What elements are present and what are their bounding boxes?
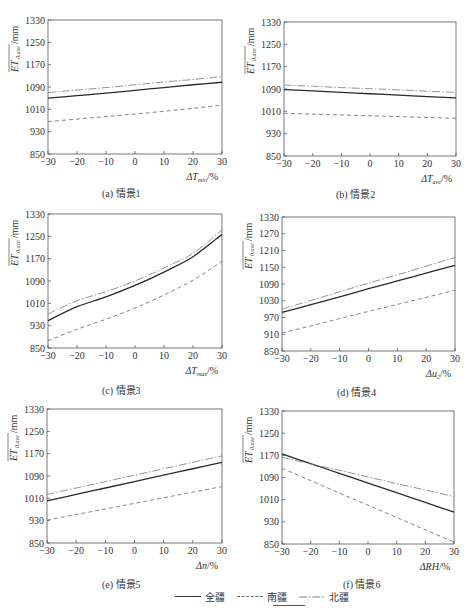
x-axis-label: ΔRH/%: [419, 561, 450, 572]
caption-d: (d) 情景4: [337, 384, 376, 399]
x-tick-label: −30: [274, 546, 290, 557]
caption-b: (b) 情景2: [336, 186, 375, 201]
y-tick-label: 1330: [259, 406, 279, 417]
x-tick-label: −20: [303, 546, 319, 557]
x-tick-label: −10: [332, 546, 348, 557]
legend-label: 南疆: [267, 589, 287, 604]
svg-text:/mm: /mm: [243, 416, 254, 435]
y-tick-label: 1170: [259, 450, 279, 461]
svg-text:ET: ET: [243, 450, 254, 464]
y-tick-label: 1250: [259, 428, 279, 439]
caption-a: (a) 情景1: [102, 185, 141, 200]
chart-svg: 85093010101090117012501330−30−20−1001020…: [0, 0, 472, 612]
svg-text:0,ave: 0,ave: [249, 437, 255, 450]
y-tick-label: 930: [264, 516, 279, 527]
dashdot-line-swatch-icon: [299, 595, 325, 599]
y-axis-label: ET0,ave/mm: [243, 416, 255, 464]
legend-item-nanjiang: 南疆: [237, 589, 287, 604]
x-tick-label: 10: [392, 546, 402, 557]
x-tick-label: 20: [420, 546, 430, 557]
caption-e: (e) 情景5: [102, 576, 141, 591]
legend-label: 全疆: [205, 589, 225, 604]
x-tick-label: 30: [449, 546, 459, 557]
legend-item-quanjiang: 全疆: [175, 589, 225, 604]
divider-line: [273, 605, 305, 606]
chart-legend: 全疆 南疆 北疆: [175, 589, 349, 604]
solid-line-swatch-icon: [175, 596, 201, 597]
plot-frame: [282, 411, 454, 544]
caption-c: (c) 情景3: [102, 382, 141, 397]
y-tick-label: 1090: [259, 472, 279, 483]
series-line-全疆: [282, 454, 454, 512]
y-tick-label: 1010: [259, 494, 279, 505]
x-tick-label: 0: [366, 546, 371, 557]
legend-label: 北疆: [329, 589, 349, 604]
legend-item-beijiang: 北疆: [299, 589, 349, 604]
dashed-line-swatch-icon: [237, 596, 263, 597]
series-line-南疆: [282, 468, 454, 542]
